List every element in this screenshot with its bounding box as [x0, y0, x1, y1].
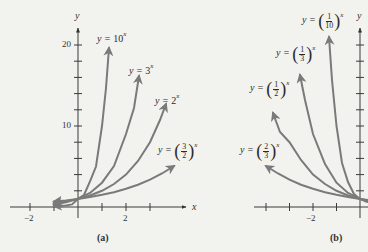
label-one-tenth-pow-x: y = (110)x: [302, 12, 343, 30]
panel-b-y-axis-label: y: [357, 10, 361, 21]
curve-3-pow-x: [54, 76, 139, 204]
curve-one-half-pow-x: [273, 113, 368, 201]
panel-b-x-tick-neg2: −2: [306, 213, 316, 223]
label-one-half-pow-x: y = (12)x: [250, 80, 289, 98]
panel-a-y-tick-20: 20: [62, 39, 71, 49]
panel-a-curves: [54, 48, 174, 206]
panel-a-y-tick-10: 10: [62, 120, 71, 130]
panel-b-caption: (b): [330, 232, 342, 243]
label-three-halves-pow-x: y = (32)x: [158, 142, 197, 160]
label-10-pow-x: y = 10x: [97, 31, 126, 44]
label-3-pow-x: y = 3x: [129, 63, 153, 76]
curve-2-pow-x: [54, 104, 166, 203]
panel-a-x-axis-label: x: [192, 201, 196, 212]
label-two-thirds-pow-x: y = (23)x: [240, 142, 279, 160]
panel-a-x-tick-2: 2: [123, 213, 128, 223]
curve-one-tenth-pow-x: [329, 37, 368, 202]
panel-a-y-axis-label: y: [75, 10, 79, 21]
label-one-third-pow-x: y = (13)x: [276, 45, 315, 63]
label-2-pow-x: y = 2x: [155, 93, 179, 106]
panel-a-x-tick-neg2: −2: [24, 213, 34, 223]
panel-a-caption: (a): [97, 232, 109, 243]
